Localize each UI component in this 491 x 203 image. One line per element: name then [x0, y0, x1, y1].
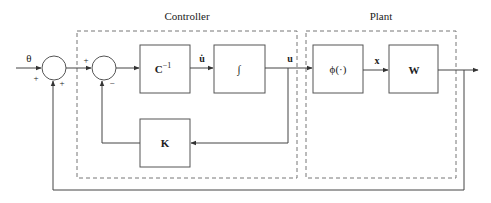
signal-x-label: x	[375, 55, 380, 66]
w-label: W	[409, 64, 420, 76]
sum2-minus-bottom: −	[109, 78, 114, 88]
input-theta-label: θ	[26, 52, 31, 64]
k-label: K	[161, 137, 170, 149]
block-diagram: Controller Plant θ + + + − C−1 u̇ ∫ u K …	[0, 0, 491, 203]
plant-title: Plant	[370, 10, 393, 22]
phi-label: ϕ(·)	[330, 63, 347, 76]
sum1-plus-left: +	[33, 73, 38, 83]
controller-title: Controller	[164, 10, 210, 22]
signal-u-label: u	[287, 53, 293, 64]
summing-junction-2	[92, 56, 116, 80]
summing-junction-1	[42, 56, 66, 80]
k-to-sum2-arrow	[102, 81, 140, 143]
sum2-plus-left: +	[83, 55, 88, 65]
sum1-plus-bottom: +	[59, 78, 64, 88]
signal-u-dot-label: u̇	[199, 53, 205, 64]
